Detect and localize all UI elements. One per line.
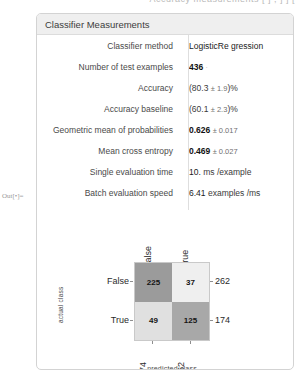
matrix-row-header: True: [79, 315, 129, 325]
value-dot: ·: [206, 64, 208, 71]
confusion-matrix: False True False True 225 37 49 125 262 …: [37, 236, 294, 370]
matrix-grid: 225 37 49 125: [134, 262, 210, 341]
axis-tick: [130, 320, 133, 321]
row-label: Accuracy baseline: [37, 104, 181, 114]
matrix-cell: 49: [135, 302, 172, 341]
classifier-measurements-card: Classifier Measurements Classifier metho…: [36, 13, 294, 370]
column-divider: [188, 35, 189, 210]
value-text: LogisticRe gression: [189, 41, 263, 51]
value-text: (60.1: [189, 104, 208, 114]
axis-tick: [210, 320, 213, 321]
row-value: LogisticRe gression: [181, 41, 293, 51]
row-label: Single evaluation time: [37, 167, 181, 177]
matrix-cell: 225: [135, 263, 172, 302]
table-row: Mean cross entropy 0.469 ± 0.027: [37, 146, 293, 167]
value-text: 0.626: [189, 125, 210, 135]
table-row: Batch evaluation speed 6.41 examples /ms: [37, 188, 293, 209]
out-prompt-label: Out[•]=: [2, 192, 24, 200]
axis-tick: [210, 281, 213, 282]
clipped-top-text: Accuracy measurements [ ] , ] ] [: [0, 0, 301, 8]
row-value: 0.469 ± 0.027: [181, 146, 293, 156]
table-row: Accuracy baseline (60.1 ± 2.3)%: [37, 104, 293, 125]
row-label: Accuracy: [37, 83, 181, 93]
axis-tick: [190, 341, 191, 344]
value-error: ± 0.027: [213, 147, 238, 156]
matrix-row-total: 262: [215, 276, 230, 286]
value-text: 6.41: [189, 188, 206, 198]
row-value: 436 ·: [181, 62, 293, 72]
matrix-row-total: 174: [215, 315, 230, 325]
x-axis-label: predicted class: [134, 365, 210, 370]
axis-tick: [152, 341, 153, 344]
row-label: Classifier method: [37, 41, 181, 51]
row-value: 0.626 ± 0.017: [181, 125, 293, 135]
value-suffix: )%: [227, 104, 237, 114]
value-suffix: ms /example: [203, 167, 251, 177]
value-text: 10.: [189, 167, 201, 177]
matrix-cell: 125: [172, 302, 209, 341]
value-error: ± 2.3: [211, 105, 228, 114]
table-row: Geometric mean of probabilities 0.626 ± …: [37, 125, 293, 146]
value-text: 436: [189, 62, 203, 72]
matrix-row-header: False: [79, 276, 129, 286]
row-value: 10. ms /example: [181, 167, 293, 177]
table-row: Accuracy (80.3 ± 1.9)%: [37, 83, 293, 104]
card-header: Classifier Measurements: [37, 14, 293, 35]
matrix-cell: 37: [172, 263, 209, 302]
row-value: (80.3 ± 1.9)%: [181, 83, 293, 93]
row-label: Geometric mean of probabilities: [37, 125, 181, 135]
table-row: Number of test examples 436 ·: [37, 62, 293, 83]
value-error: ± 1.9: [211, 84, 228, 93]
value-suffix: examples /ms: [208, 188, 260, 198]
row-label: Mean cross entropy: [37, 146, 181, 156]
row-value: 6.41 examples /ms: [181, 188, 293, 198]
y-axis-label: actual class: [57, 287, 64, 323]
value-text: (80.3: [189, 83, 208, 93]
value-error: ± 0.017: [213, 126, 238, 135]
row-label: Number of test examples: [37, 62, 181, 72]
row-label: Batch evaluation speed: [37, 188, 181, 198]
value-suffix: )%: [227, 83, 237, 93]
measurements-table: Classifier method LogisticRe gression Nu…: [37, 35, 293, 209]
card-title: Classifier Measurements: [45, 19, 150, 30]
axis-tick: [130, 281, 133, 282]
table-row: Classifier method LogisticRe gression: [37, 41, 293, 62]
table-row: Single evaluation time 10. ms /example: [37, 167, 293, 188]
value-text: 0.469: [189, 146, 210, 156]
row-value: (60.1 ± 2.3)%: [181, 104, 293, 114]
